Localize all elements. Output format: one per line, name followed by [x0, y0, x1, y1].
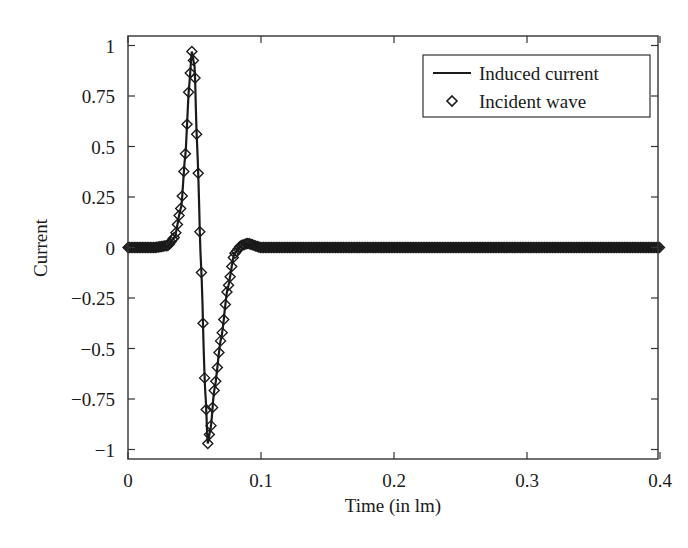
y-tick-label: 0 [106, 238, 116, 259]
y-tick-label: −0.75 [71, 389, 115, 410]
x-tick-label: 0.1 [249, 470, 273, 491]
chart: 00.10.20.30.4 10.750.50.250−0.25−0.5−0.7… [0, 0, 688, 548]
x-tick-label: 0.3 [515, 470, 539, 491]
y-tick-label: 1 [106, 36, 116, 57]
legend: Induced current Incident wave [423, 55, 650, 117]
y-tick-label: −0.25 [71, 288, 115, 309]
legend-label-induced-current: Induced current [479, 63, 599, 84]
y-tick-label: −0.5 [81, 339, 115, 360]
y-tick-label: 0.75 [82, 86, 115, 107]
y-tick-label: 0.25 [82, 187, 115, 208]
legend-label-incident-wave: Incident wave [479, 91, 586, 112]
x-tick-label: 0.2 [382, 470, 406, 491]
x-tick-label: 0 [123, 470, 133, 491]
x-tick-label: 0.4 [648, 470, 672, 491]
y-axis-title: Current [30, 218, 51, 277]
y-tick-label: 0.5 [91, 137, 115, 158]
y-tick-label: −1 [95, 440, 115, 461]
x-axis-title: Time (in lm) [345, 495, 441, 517]
